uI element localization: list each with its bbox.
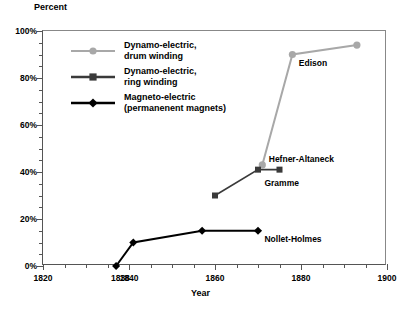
x-tick-label-1880: 1880	[279, 273, 323, 283]
x-axis-title: Year	[0, 288, 401, 298]
y-tick-label-20: 20%	[3, 214, 37, 224]
legend-label-line1: Dynamo-electric,	[124, 40, 197, 51]
legend-marker-circle-icon	[70, 45, 116, 57]
legend-label-2: Magneto-electric(permanenent magnets)	[124, 92, 226, 114]
annotation-edison: Edison	[299, 58, 327, 68]
y-axis-title: Percent	[34, 2, 67, 12]
legend-marker-diamond-icon	[70, 97, 116, 109]
figure: Percent 0%20%40%60%80%100%18201840186018…	[0, 0, 401, 310]
legend-label-line2: ring winding	[124, 77, 197, 88]
x-tick-label-1838: 1838	[98, 273, 142, 283]
figure-caption	[8, 300, 401, 310]
legend-label-1: Dynamo-electric,ring winding	[124, 66, 197, 88]
legend-label-line2: drum winding	[124, 51, 197, 62]
annotation-gramme: Gramme	[264, 178, 299, 188]
legend-label-line1: Magneto-electric	[124, 92, 226, 103]
plot-area: 0%20%40%60%80%100%1820184018601880190018…	[42, 30, 386, 265]
series-2	[112, 227, 262, 270]
x-tick-label-1900: 1900	[365, 273, 401, 283]
legend-label-line1: Dynamo-electric,	[124, 66, 197, 77]
y-tick-label-80: 80%	[3, 73, 37, 83]
data-series-layer	[43, 31, 387, 266]
x-tick-label-1860: 1860	[193, 273, 237, 283]
legend-label-0: Dynamo-electric,drum winding	[124, 40, 197, 62]
annotation-hefner-altaneck: Hefner-Altaneck	[269, 154, 334, 164]
x-tick-1900	[387, 264, 388, 270]
y-tick-label-40: 40%	[3, 167, 37, 177]
legend-marker-square-icon	[70, 71, 116, 83]
y-tick-label-100: 100%	[3, 26, 37, 36]
annotation-nollet-holmes: Nollet-Holmes	[264, 234, 321, 244]
legend-label-line2: (permanenent magnets)	[124, 103, 226, 114]
y-tick-label-0: 0%	[3, 261, 37, 271]
x-tick-label-1820: 1820	[21, 273, 65, 283]
y-tick-label-60: 60%	[3, 120, 37, 130]
